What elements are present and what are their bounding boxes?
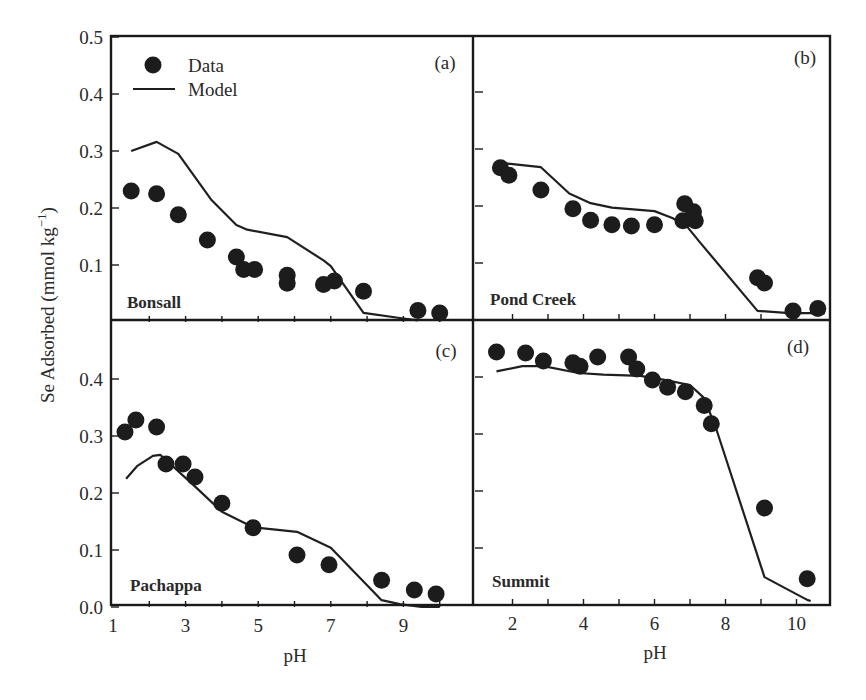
data-point <box>589 349 606 366</box>
data-point <box>517 345 534 362</box>
data-point <box>603 216 620 233</box>
y-axis-title-superscript: −1 <box>34 213 49 227</box>
data-point <box>409 302 426 319</box>
data-point <box>644 371 661 388</box>
panel-d: 246810(d)Summit <box>475 336 816 634</box>
data-point <box>756 500 773 517</box>
x-tick-label: 1 <box>108 615 118 636</box>
data-point <box>245 519 262 536</box>
data-point <box>175 455 192 472</box>
site-name: Pond Creek <box>490 290 577 309</box>
data-point <box>246 261 263 278</box>
data-point <box>500 167 517 184</box>
y-tick-label: 0.3 <box>79 426 103 447</box>
x-tick-label: 9 <box>399 615 409 636</box>
data-point <box>623 217 640 234</box>
data-point <box>785 302 802 319</box>
data-point <box>677 383 694 400</box>
data-point <box>756 274 773 291</box>
x-axis-title-right: pH <box>643 642 667 663</box>
x-axis-title-left: pH <box>283 645 307 666</box>
data-point <box>148 185 165 202</box>
site-name: Bonsall <box>127 293 181 312</box>
panel-a: 0.10.20.30.40.5(a)Bonsall <box>79 27 455 322</box>
data-point <box>564 200 581 217</box>
x-tick-label: 4 <box>579 613 589 634</box>
x-tick-label: 7 <box>326 615 336 636</box>
data-point <box>321 556 338 573</box>
data-point <box>289 547 306 564</box>
y-tick-label: 0.1 <box>79 540 103 561</box>
data-point <box>659 379 676 396</box>
y-tick-label: 0.0 <box>79 597 103 618</box>
model-line <box>497 366 811 601</box>
panels-group: 0.10.20.30.40.5(a)Bonsall(b)Pond Creek0.… <box>79 27 826 636</box>
y-tick-label: 0.3 <box>79 141 103 162</box>
x-tick-label: 6 <box>650 613 660 634</box>
y-tick-label: 0.5 <box>79 27 103 48</box>
data-point <box>799 570 816 587</box>
data-point <box>646 216 663 233</box>
y-tick-label: 0.4 <box>79 84 103 105</box>
panel-tag: (d) <box>787 336 809 358</box>
data-point <box>488 343 505 360</box>
panel-tag: (a) <box>434 52 455 74</box>
data-point <box>158 455 175 472</box>
site-name: Summit <box>492 572 550 591</box>
x-tick-label: 8 <box>721 613 731 634</box>
panel-c: 0.00.10.20.30.413579(c)Pachappa <box>79 340 456 636</box>
data-point <box>187 469 204 486</box>
data-point <box>406 581 423 598</box>
data-point <box>199 231 216 248</box>
x-tick-label: 10 <box>787 613 806 634</box>
panel-tag: (c) <box>435 340 456 362</box>
data-point <box>687 212 704 229</box>
data-point <box>703 415 720 432</box>
x-tick-label: 2 <box>508 613 518 634</box>
legend-data-marker-icon <box>145 57 162 74</box>
panel-tag: (b) <box>794 47 816 69</box>
data-point <box>572 358 589 375</box>
data-point <box>373 572 390 589</box>
data-point <box>696 397 713 414</box>
y-tick-label: 0.1 <box>79 255 103 276</box>
legend-data-label: Data <box>188 55 224 76</box>
data-point <box>213 495 230 512</box>
data-point <box>628 361 645 378</box>
y-tick-label: 0.2 <box>79 483 103 504</box>
legend-model-label: Model <box>188 79 238 100</box>
figure-canvas: Se Adsorbed (mmol kg−1) pH pH 0.10.20.30… <box>0 0 866 700</box>
data-point <box>279 275 296 292</box>
data-point <box>809 300 826 317</box>
data-point <box>428 585 445 602</box>
panel-b: (b)Pond Creek <box>475 47 826 320</box>
data-point <box>535 353 552 370</box>
y-axis-title: Se Adsorbed (mmol kg−1) <box>34 207 59 403</box>
x-tick-label: 3 <box>181 615 191 636</box>
data-point <box>148 418 165 435</box>
site-name: Pachappa <box>130 576 202 595</box>
data-point <box>127 412 144 429</box>
y-tick-label: 0.2 <box>79 198 103 219</box>
data-point <box>170 206 187 223</box>
data-point <box>123 182 140 199</box>
legend: Data Model <box>133 55 238 100</box>
y-tick-label: 0.4 <box>79 369 103 390</box>
data-point <box>355 283 372 300</box>
data-point <box>582 212 599 229</box>
data-point <box>532 182 549 199</box>
x-tick-label: 5 <box>253 615 263 636</box>
data-point <box>326 273 343 290</box>
